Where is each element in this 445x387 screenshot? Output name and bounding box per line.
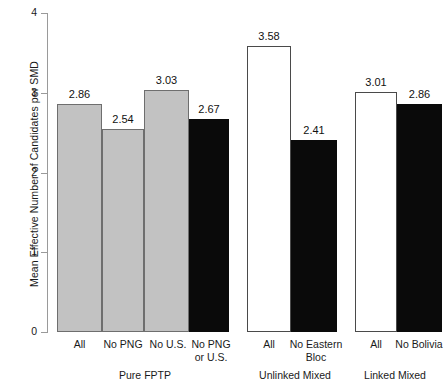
- bar-value-label: 3.03: [138, 74, 195, 86]
- category-label-line: No Eastern: [285, 338, 347, 351]
- bar-value-label: 3.01: [349, 76, 403, 88]
- category-label: No Bolivia: [390, 338, 445, 351]
- category-label: No U.S.: [143, 338, 193, 351]
- plot-area: 2.862.543.032.673.582.413.012.86: [0, 0, 445, 333]
- category-label: All: [57, 338, 102, 351]
- group-label: Linked Mixed: [340, 369, 445, 381]
- category-label-line: No Bolivia: [390, 338, 445, 351]
- group-label: Pure FPTP: [80, 369, 210, 381]
- bar-value-label: 2.54: [96, 113, 150, 125]
- category-label-line: All: [57, 338, 102, 351]
- category-label-line: Bloc: [285, 351, 347, 364]
- category-label: No EasternBloc: [285, 338, 347, 363]
- bar-value-label: 2.41: [285, 124, 343, 136]
- bar: [397, 104, 442, 332]
- bar-value-label: 2.67: [183, 103, 235, 115]
- category-label: No PNG: [97, 338, 149, 351]
- bar: [189, 119, 229, 332]
- bar: [355, 92, 397, 332]
- bar: [291, 140, 337, 332]
- bar: [144, 90, 189, 332]
- bar: [102, 129, 144, 332]
- bar-chart: Mean Effective Number of Candidates per …: [0, 0, 445, 387]
- category-label: No PNGor U.S.: [187, 338, 235, 363]
- bar-value-label: 2.86: [51, 88, 108, 100]
- bar: [57, 104, 102, 332]
- category-label-line: or U.S.: [187, 351, 235, 364]
- category-label-line: No PNG: [187, 338, 235, 351]
- category-label-line: No U.S.: [143, 338, 193, 351]
- bar-value-label: 2.86: [391, 88, 445, 100]
- bar-value-label: 3.58: [241, 30, 297, 42]
- bar: [247, 46, 291, 332]
- category-label-line: No PNG: [97, 338, 149, 351]
